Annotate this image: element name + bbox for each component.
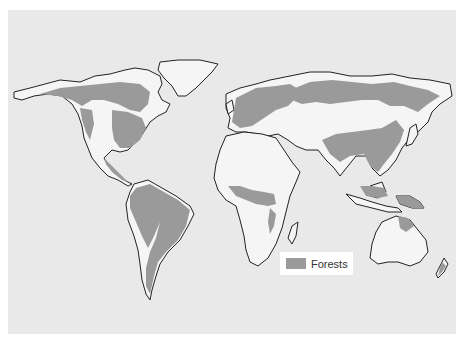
australia bbox=[370, 216, 428, 266]
forest-swatch bbox=[286, 258, 306, 269]
madagascar bbox=[288, 222, 298, 244]
world-map bbox=[8, 10, 456, 334]
greenland bbox=[158, 60, 218, 96]
forest-new-guinea bbox=[396, 196, 424, 208]
legend: Forests bbox=[280, 252, 353, 275]
legend-label-forests: Forests bbox=[311, 258, 348, 270]
map-panel: Forests bbox=[8, 10, 456, 334]
